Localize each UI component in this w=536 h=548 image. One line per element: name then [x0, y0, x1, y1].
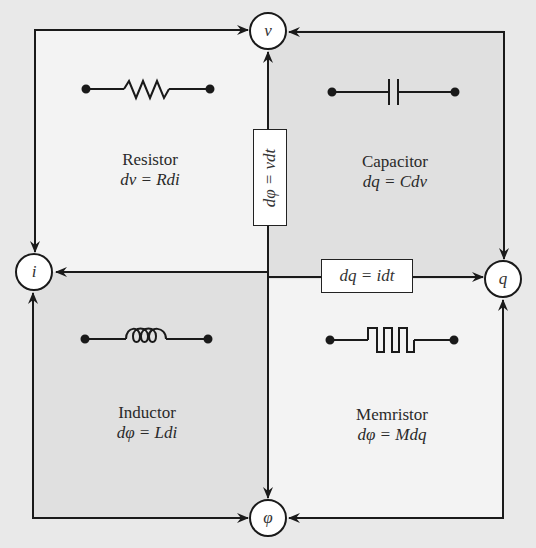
memristor-name: Memristor [327, 405, 457, 425]
resistor-equation: dv = Rdi [85, 170, 215, 190]
node-q-label: q [499, 269, 508, 289]
node-i: i [15, 253, 53, 291]
inductor-equation: dφ = Ldi [82, 423, 212, 443]
diagram-canvas [0, 0, 536, 548]
inductor-label-group: Inductor dφ = Ldi [82, 403, 212, 443]
capacitor-equation: dq = Cdv [330, 172, 460, 192]
horizontal-relation-box: dq = idt [321, 259, 413, 293]
vertical-relation-label: dφ = vdt [260, 148, 280, 207]
resistor-name: Resistor [85, 150, 215, 170]
capacitor-label-group: Capacitor dq = Cdv [330, 152, 460, 192]
inductor-name: Inductor [82, 403, 212, 423]
memristor-quadrant-bg [268, 279, 504, 518]
node-v: v [249, 12, 287, 50]
node-phi-label: φ [263, 508, 272, 528]
resistor-label-group: Resistor dv = Rdi [85, 150, 215, 190]
vertical-relation-box: dφ = vdt [253, 129, 287, 226]
node-phi: φ [249, 499, 287, 537]
memristor-equation: dφ = Mdq [327, 425, 457, 445]
node-q: q [484, 260, 522, 298]
node-i-label: i [32, 262, 37, 282]
capacitor-name: Capacitor [330, 152, 460, 172]
node-v-label: v [264, 21, 272, 41]
memristor-label-group: Memristor dφ = Mdq [327, 405, 457, 445]
inductor-quadrant-bg [33, 272, 268, 518]
horizontal-relation-label: dq = idt [340, 266, 395, 286]
